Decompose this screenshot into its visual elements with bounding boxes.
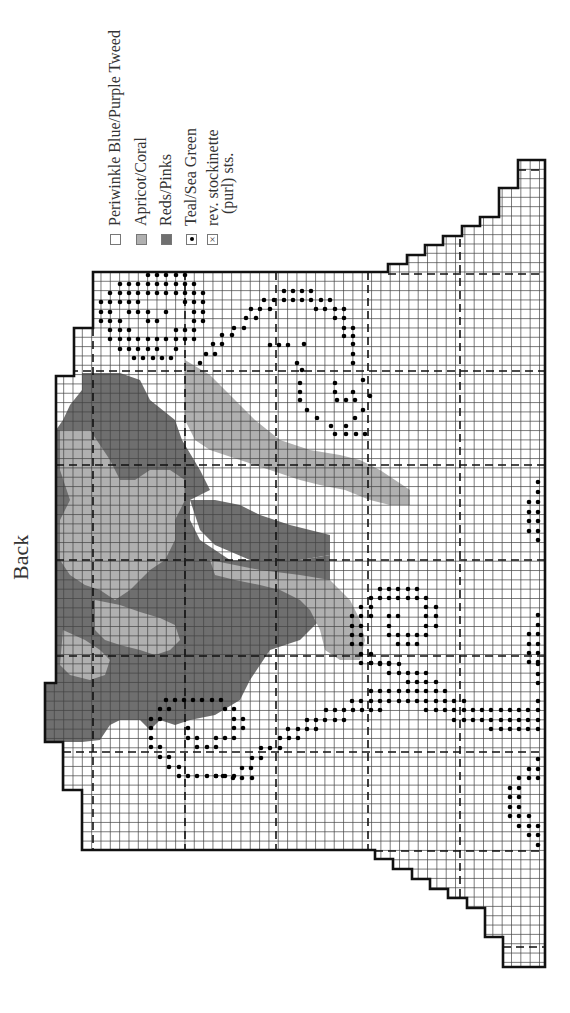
legend-label: rev. stockinette (purl) sts. xyxy=(205,129,235,226)
legend-label: Apricot/Coral xyxy=(133,137,149,226)
legend-item-apricot: Apricot/Coral xyxy=(130,0,152,245)
dark-gray-square-icon xyxy=(161,234,172,245)
legend-label: Reds/Pinks xyxy=(158,154,174,226)
legend-label-line1: rev. stockinette xyxy=(205,129,220,226)
chart-title: Back xyxy=(8,535,34,580)
legend-item-periwinkle: Periwinkle Blue/Purple Tweed xyxy=(104,0,126,245)
legend-label-line2: (purl) sts. xyxy=(220,129,235,226)
apricot-region xyxy=(185,360,410,505)
legend-label: Teal/Sea Green xyxy=(183,128,199,226)
empty-square-icon xyxy=(110,234,121,245)
legend-item-reds: Reds/Pinks xyxy=(155,0,177,245)
x-square-icon: × xyxy=(207,234,218,245)
dot-square-icon xyxy=(186,234,197,245)
light-gray-square-icon xyxy=(136,234,147,245)
legend-item-rev-stockinette: × rev. stockinette (purl) sts. xyxy=(205,0,241,245)
legend-label: Periwinkle Blue/Purple Tweed xyxy=(107,30,123,226)
legend-item-teal: Teal/Sea Green xyxy=(180,0,202,245)
legend: Periwinkle Blue/Purple Tweed Apricot/Cor… xyxy=(52,0,172,245)
